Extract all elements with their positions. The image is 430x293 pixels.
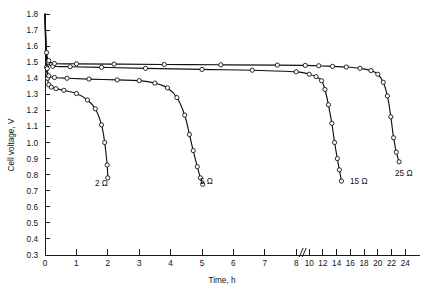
y-tick-label: 0.6: [27, 203, 39, 212]
x-tick-label: 24: [401, 259, 411, 268]
series-line: [45, 14, 203, 184]
x-tick-label: 4: [168, 259, 173, 268]
x-tick-label: 12: [318, 259, 328, 268]
data-point-marker: [162, 62, 166, 66]
data-point-marker: [115, 78, 119, 82]
data-point-marker: [381, 80, 385, 84]
data-point-marker: [294, 70, 298, 74]
series-label: 5 Ω: [200, 177, 213, 186]
data-point-marker: [112, 62, 116, 66]
data-point-marker: [52, 75, 56, 79]
x-tick-label: 18: [360, 259, 370, 268]
data-point-marker: [335, 157, 339, 161]
data-series: [44, 14, 401, 164]
data-point-marker: [165, 86, 169, 90]
data-point-marker: [385, 94, 389, 98]
y-tick-label: 1.5: [27, 58, 39, 67]
x-tick-label: 6: [231, 259, 236, 268]
data-point-marker: [326, 103, 330, 107]
data-point-marker: [153, 81, 157, 85]
chart-container: 0.30.40.50.60.70.80.91.01.11.21.31.41.51…: [0, 0, 430, 293]
y-tick-label: 1.2: [27, 106, 39, 115]
data-point-marker: [250, 68, 254, 72]
data-point-marker: [275, 63, 279, 67]
x-axis: 0123456781012141618202224: [43, 248, 420, 268]
y-tick-label: 1.6: [27, 42, 39, 51]
data-point-marker: [187, 132, 191, 136]
x-tick-label: 20: [373, 259, 383, 268]
y-tick-label: 0.8: [27, 171, 39, 180]
data-point-marker: [389, 115, 393, 119]
y-tick-label: 1.4: [27, 74, 39, 83]
series-label: 25 Ω: [395, 169, 413, 178]
data-point-marker: [105, 163, 109, 167]
y-tick-label: 1.3: [27, 90, 39, 99]
data-point-marker: [330, 64, 334, 68]
data-point-marker: [391, 136, 395, 140]
data-point-marker: [52, 61, 56, 65]
data-point-marker: [99, 65, 103, 69]
data-series: [44, 14, 109, 180]
data-point-marker: [137, 79, 141, 83]
data-point-marker: [330, 121, 334, 125]
series-line: [45, 14, 399, 162]
data-point-marker: [332, 140, 336, 144]
x-axis-title: Time, h: [209, 276, 236, 285]
data-point-marker: [314, 75, 318, 79]
y-tick-label: 1.8: [27, 10, 39, 19]
data-point-marker: [319, 79, 323, 83]
data-point-marker: [317, 64, 321, 68]
data-point-marker: [339, 179, 343, 183]
series-label: 2 Ω: [95, 179, 108, 188]
data-series: [45, 14, 205, 186]
x-tick-label: 2: [106, 259, 111, 268]
data-point-marker: [87, 77, 91, 81]
data-point-marker: [397, 160, 401, 164]
data-point-marker: [307, 72, 311, 76]
x-tick-label: 0: [43, 259, 48, 268]
x-tick-label: 3: [137, 259, 142, 268]
axis-break-marker: [299, 248, 306, 257]
y-tick-label: 1.7: [27, 26, 39, 35]
data-point-marker: [195, 165, 199, 169]
data-point-marker: [85, 98, 89, 102]
y-tick-label: 0.3: [27, 251, 39, 260]
x-tick-label: 1: [74, 259, 79, 268]
data-point-marker: [376, 72, 380, 76]
data-point-marker: [323, 87, 327, 91]
y-tick-label: 0.9: [27, 155, 39, 164]
series-labels-group: 2 Ω5 Ω15 Ω25 Ω: [95, 169, 413, 188]
y-tick-label: 0.4: [27, 235, 39, 244]
data-point-marker: [74, 91, 78, 95]
series-line: [45, 14, 341, 181]
data-point-marker: [47, 74, 51, 78]
data-point-marker: [175, 95, 179, 99]
y-tick-label: 0.5: [27, 219, 39, 228]
y-tick-label: 1.0: [27, 139, 39, 148]
data-point-marker: [62, 88, 66, 92]
data-point-marker: [54, 87, 58, 91]
x-tick-label: 14: [332, 259, 342, 268]
data-series: [45, 14, 344, 183]
data-point-marker: [68, 65, 72, 69]
data-point-marker: [143, 66, 147, 70]
data-point-marker: [369, 68, 373, 72]
data-point-marker: [74, 62, 78, 66]
y-tick-label: 0.7: [27, 187, 39, 196]
data-point-marker: [47, 58, 51, 62]
data-point-marker: [191, 148, 195, 152]
data-point-marker: [344, 65, 348, 69]
data-point-marker: [303, 63, 307, 67]
data-point-marker: [49, 85, 53, 89]
y-axis-title: Cell voltage, V: [7, 118, 16, 171]
data-point-marker: [394, 150, 398, 154]
x-tick-label: 16: [346, 259, 356, 268]
data-point-marker: [93, 107, 97, 111]
data-point-marker: [45, 67, 49, 71]
series-label: 15 Ω: [350, 177, 368, 186]
x-tick-label: 8: [294, 259, 299, 268]
x-tick-label: 22: [387, 259, 397, 268]
data-point-marker: [183, 113, 187, 117]
data-point-marker: [200, 67, 204, 71]
data-point-marker: [219, 63, 223, 67]
